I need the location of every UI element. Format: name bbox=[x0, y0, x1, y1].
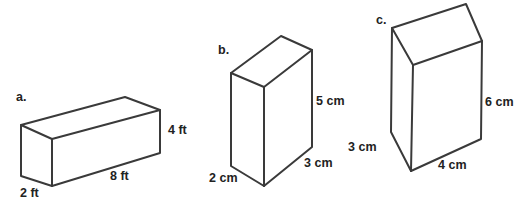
figure-b-length-label: 3 cm bbox=[304, 156, 333, 170]
figure-a-length-label: 8 ft bbox=[110, 169, 130, 183]
figure-b-height-label: 5 cm bbox=[316, 94, 345, 108]
prism-c: c. 6 cm 4 cm 3 cm bbox=[348, 4, 514, 172]
prism-b: b. 5 cm 3 cm 2 cm bbox=[209, 36, 345, 186]
figure-c-tag: c. bbox=[376, 13, 386, 27]
prism-a: a. 4 ft 8 ft 2 ft bbox=[16, 90, 188, 200]
figure-c-height-label: 6 cm bbox=[485, 95, 514, 109]
figure-c-width-label: 3 cm bbox=[348, 140, 377, 154]
figure-a-tag: a. bbox=[16, 90, 26, 104]
figure-b-tag: b. bbox=[218, 43, 229, 57]
prisms-diagram: a. 4 ft 8 ft 2 ft b. 5 cm 3 cm 2 cm c. 6… bbox=[0, 0, 530, 207]
figure-a-height-label: 4 ft bbox=[168, 123, 188, 137]
figure-a-width-label: 2 ft bbox=[20, 186, 40, 200]
figure-b-width-label: 2 cm bbox=[209, 171, 238, 185]
figure-c-length-label: 4 cm bbox=[438, 158, 467, 172]
